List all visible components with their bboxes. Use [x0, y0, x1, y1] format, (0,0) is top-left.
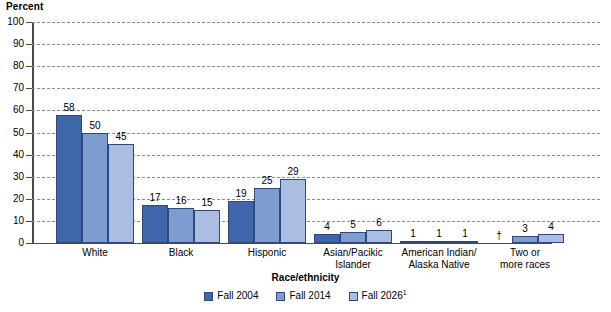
legend-label: Fall 2014: [289, 291, 330, 301]
legend-label: Fall 2004: [217, 291, 258, 301]
bar: [194, 210, 220, 243]
y-axis-tick-label: 30: [0, 172, 24, 182]
bar-value-label: 15: [192, 197, 222, 208]
bar: [280, 179, 306, 243]
legend-item[interactable]: Fall 2014: [276, 291, 330, 301]
bar: [366, 230, 392, 243]
legend-swatch: [349, 292, 358, 301]
bar: [108, 144, 134, 243]
y-axis-tick-label: 70: [0, 83, 24, 93]
bar: [512, 236, 538, 243]
bar: [254, 188, 280, 243]
bar-group: 192529: [228, 22, 306, 243]
x-axis-category-label: Two ormore races: [465, 247, 585, 270]
bar-value-label: 29: [278, 166, 308, 177]
bar: [314, 234, 340, 243]
bar-value-label: 50: [80, 120, 110, 131]
y-axis-title: Percent: [6, 1, 43, 12]
bar-group: 111: [400, 22, 478, 243]
bar-group: 171615: [142, 22, 220, 243]
bar-value-label: 1: [450, 228, 480, 239]
y-axis-tick-label: 80: [0, 61, 24, 71]
legend-item[interactable]: Fall 20261: [349, 291, 407, 301]
bar: [228, 201, 254, 243]
y-axis-tick-label: 60: [0, 105, 24, 115]
bar: [426, 241, 452, 243]
legend-footnote-marker: 1: [403, 289, 407, 296]
bar: [168, 208, 194, 243]
legend-item[interactable]: Fall 2004: [204, 291, 258, 301]
legend: Fall 2004Fall 2014Fall 20261: [0, 291, 611, 301]
bar-group: 585045: [56, 22, 134, 243]
bar: [82, 133, 108, 244]
legend-swatch: [204, 292, 213, 301]
bar: [56, 115, 82, 243]
bar-value-label: 19: [226, 188, 256, 199]
bar-value-label: 45: [106, 131, 136, 142]
bar: [340, 232, 366, 243]
y-axis-tick-label: 10: [0, 216, 24, 226]
bar-value-label: 4: [536, 221, 566, 232]
bar-value-label: 58: [54, 102, 84, 113]
bar: [538, 234, 564, 243]
y-axis-tick-label: 20: [0, 194, 24, 204]
legend-label: Fall 20261: [362, 291, 407, 301]
y-axis-tick-label: 0: [0, 238, 24, 248]
y-axis-tick-label: 90: [0, 39, 24, 49]
bar: [142, 205, 168, 243]
plot-area: 585045171615192529456111†34: [32, 22, 600, 243]
bar-group: 456: [314, 22, 392, 243]
bar: [452, 241, 478, 243]
legend-swatch: [276, 292, 285, 301]
x-axis-baseline: [32, 243, 552, 244]
bar-group: †34: [486, 22, 564, 243]
y-axis-tick-label: 50: [0, 128, 24, 138]
y-axis-tick-label: 100: [0, 17, 24, 27]
bar-value-label: 6: [364, 217, 394, 228]
bar-chart: Percent 1009080706050403020100 585045171…: [0, 0, 611, 312]
bar: [400, 241, 426, 243]
y-axis-tick-label: 40: [0, 150, 24, 160]
x-axis-title: Race/ethnicity: [0, 272, 611, 283]
